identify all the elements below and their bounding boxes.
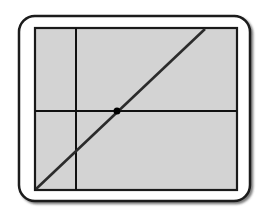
plot-area — [35, 28, 237, 190]
coordinate-diagram — [0, 0, 267, 216]
marked-point — [114, 108, 121, 115]
